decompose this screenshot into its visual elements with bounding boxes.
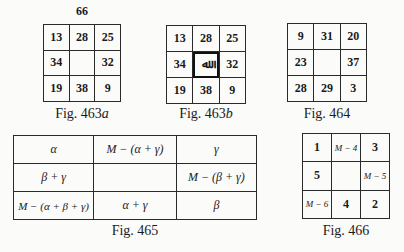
cell: 29 [314, 76, 340, 102]
cell: 9 [95, 76, 121, 102]
cell-empty [314, 50, 340, 76]
cell: 3 [361, 134, 390, 162]
cell: 4 [332, 190, 361, 218]
fig463a-top-sum: 66 [76, 4, 88, 19]
cell: γ [176, 136, 256, 164]
cell-empty [332, 162, 361, 190]
cell-empty [94, 164, 177, 192]
cell: 23 [288, 50, 314, 76]
cell: 13 [44, 25, 70, 51]
cell: 9 [219, 78, 245, 104]
cell: M − (α + γ) [94, 136, 177, 164]
cell: 37 [340, 50, 366, 76]
cell: M − 4 [332, 134, 361, 162]
cell: 9 [288, 24, 314, 50]
caption-text: Fig. 463 [55, 106, 102, 121]
fig463b-caption: Fig. 463b [163, 106, 249, 122]
cell: 20 [340, 24, 366, 50]
cell: 19 [44, 76, 70, 102]
cell: M − (α + β + γ) [14, 192, 94, 220]
cell: 34 [44, 50, 70, 76]
cell: 28 [69, 25, 95, 51]
cell: 1 [303, 134, 332, 162]
fig463b-magic-square: 132825 34ﷲ32 19389 [166, 25, 246, 104]
caption-suffix: a [102, 106, 109, 121]
fig464-magic-square: 93120 2337 28293 [287, 23, 367, 102]
fig466-magic-square: 1M − 43 5M − 5 M − 642 [302, 133, 390, 219]
cell: 32 [219, 52, 245, 78]
allah-calligraphy-icon: ﷲ [193, 52, 219, 78]
cell: 38 [69, 76, 95, 102]
cell: 25 [95, 25, 121, 51]
caption-text: Fig. 463 [179, 106, 226, 121]
cell: 5 [303, 162, 332, 190]
cell: α + γ [94, 192, 177, 220]
cell: α [14, 136, 94, 164]
cell: 28 [288, 76, 314, 102]
cell: 2 [361, 190, 390, 218]
cell: β + γ [14, 164, 94, 192]
cell: 38 [193, 78, 219, 104]
cell: 19 [167, 78, 193, 104]
cell: 31 [314, 24, 340, 50]
cell: M − 5 [361, 162, 390, 190]
fig463a-magic-square: 132825 3432 19389 [43, 24, 121, 102]
fig465-caption: Fig. 465 [95, 223, 175, 239]
cell: 3 [340, 76, 366, 102]
fig466-caption: Fig. 466 [306, 223, 386, 239]
cell: 25 [219, 26, 245, 52]
caption-suffix: b [226, 106, 233, 121]
cell: 32 [95, 50, 121, 76]
cell: M − 6 [303, 190, 332, 218]
cell: 13 [167, 26, 193, 52]
cell: 34 [167, 52, 193, 78]
cell: 28 [193, 26, 219, 52]
fig465-general-square: αM − (α + γ)γ β + γM − (β + γ) M − (α + … [13, 135, 257, 220]
fig463a-caption: Fig. 463a [40, 106, 124, 122]
cell: M − (β + γ) [176, 164, 256, 192]
cell-empty [69, 50, 95, 76]
fig464-caption: Fig. 464 [284, 106, 370, 122]
cell: β [176, 192, 256, 220]
